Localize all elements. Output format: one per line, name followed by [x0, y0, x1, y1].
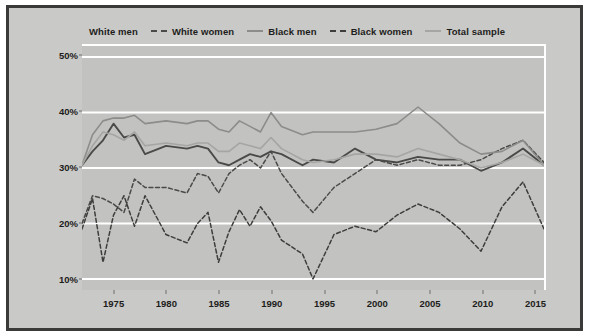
- x-tick-label: 2005: [419, 298, 440, 309]
- x-tick-mark: [482, 290, 483, 294]
- series-line-black-women: [82, 182, 544, 279]
- y-tick-label: 20%: [59, 217, 78, 228]
- x-tick-mark: [535, 290, 536, 294]
- x-tick-mark: [271, 290, 272, 294]
- x-tick-mark: [113, 290, 114, 294]
- x-axis-ticks: 197519801985199019952000200520102015: [82, 290, 546, 314]
- x-tick-label: 1980: [156, 298, 177, 309]
- chart-legend: White menWhite womenBlack menBlack women…: [0, 22, 589, 40]
- x-tick-mark: [219, 290, 220, 294]
- y-tick-label: 30%: [59, 162, 78, 173]
- series-line-black-men: [82, 107, 544, 165]
- plot-area: [82, 44, 546, 290]
- x-tick-label: 1990: [261, 298, 282, 309]
- legend-line-icon: [247, 30, 263, 32]
- legend-item-black-men: Black men: [247, 26, 316, 37]
- y-tick-label: 10%: [59, 273, 78, 284]
- plot-svg: [82, 46, 544, 290]
- x-tick-label: 2010: [472, 298, 493, 309]
- legend-line-icon: [151, 30, 167, 32]
- legend-line-icon: [425, 30, 441, 32]
- x-tick-label: 1975: [103, 298, 124, 309]
- x-tick-label: 2015: [525, 298, 546, 309]
- x-tick-label: 2000: [367, 298, 388, 309]
- x-tick-label: 1985: [209, 298, 230, 309]
- legend-item-label: Black men: [268, 26, 316, 37]
- series-line-white-men: [82, 124, 544, 171]
- x-tick-label: 1995: [314, 298, 335, 309]
- series-line-white-women: [82, 140, 544, 223]
- x-tick-mark: [166, 290, 167, 294]
- legend-item-label: White women: [172, 26, 234, 37]
- x-tick-mark: [377, 290, 378, 294]
- legend-item-white-men: White men: [84, 26, 138, 37]
- y-tick-label: 50%: [59, 50, 78, 61]
- y-tick-label: 40%: [59, 106, 78, 117]
- y-axis-ticks: 10%20%30%40%50%: [34, 44, 78, 290]
- legend-item-white-women: White women: [151, 26, 234, 37]
- legend-item-label: Black women: [351, 26, 413, 37]
- legend-item-black-women: Black women: [330, 26, 413, 37]
- legend-item-label: White men: [89, 26, 138, 37]
- x-tick-mark: [324, 290, 325, 294]
- chart-screenshot: White menWhite womenBlack menBlack women…: [0, 0, 589, 336]
- x-tick-mark: [430, 290, 431, 294]
- legend-item-total-sample: Total sample: [425, 26, 505, 37]
- legend-line-icon: [330, 30, 346, 32]
- legend-item-label: Total sample: [446, 26, 505, 37]
